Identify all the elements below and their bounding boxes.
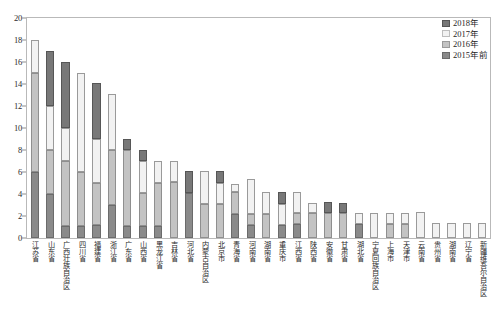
legend-item-2015年前[interactable]: 2015年前 bbox=[442, 51, 488, 60]
bar-segment-2017年 bbox=[416, 212, 424, 238]
x-axis-label: 四川省 bbox=[77, 241, 84, 262]
bar-segment-2016年 bbox=[154, 183, 162, 226]
x-axis-label: 河南省 bbox=[247, 241, 254, 262]
bar-segment-2015年前 bbox=[231, 214, 239, 238]
bar-天津市[interactable] bbox=[401, 213, 409, 238]
bar-segment-2016年 bbox=[200, 204, 208, 238]
bar-湖南省[interactable] bbox=[262, 192, 270, 238]
x-axis-label: 江西省 bbox=[293, 241, 300, 262]
bar-湖北省[interactable] bbox=[355, 213, 363, 238]
bar-segment-2016年 bbox=[339, 213, 347, 238]
bar-山西省[interactable] bbox=[139, 150, 147, 238]
bar-广东省[interactable] bbox=[123, 139, 131, 238]
bar-上海市[interactable] bbox=[386, 213, 394, 238]
bar-segment-2017年 bbox=[216, 183, 224, 204]
bar-黑龙江省[interactable] bbox=[154, 161, 162, 238]
bar-重庆市[interactable] bbox=[278, 192, 286, 238]
y-axis-tick-label: 12 bbox=[14, 102, 22, 111]
bar-江西省[interactable] bbox=[293, 192, 301, 238]
bar-河南省[interactable] bbox=[247, 179, 255, 238]
y-axis-tick-label: 10 bbox=[14, 124, 22, 133]
bar-segment-2017年 bbox=[108, 94, 116, 150]
legend-item-2016年[interactable]: 2016年 bbox=[442, 40, 479, 49]
bar-云南省[interactable] bbox=[416, 212, 424, 238]
bar-segment-2016年 bbox=[108, 150, 116, 205]
bar-segment-2016年 bbox=[401, 224, 409, 238]
legend-label: 2015年前 bbox=[453, 51, 488, 60]
bar-辽宁省[interactable] bbox=[463, 223, 471, 238]
bar-segment-2017年 bbox=[139, 161, 147, 193]
x-axis-label: 山东省 bbox=[46, 241, 53, 262]
bar-segment-2015年前 bbox=[293, 224, 301, 238]
x-axis-label: 青海省 bbox=[232, 241, 239, 262]
bar-贵州省[interactable] bbox=[432, 223, 440, 238]
bar-segment-2017年 bbox=[401, 213, 409, 224]
bar-内蒙古自治区[interactable] bbox=[200, 171, 208, 238]
bar-segment-2015年前 bbox=[77, 226, 85, 238]
y-axis-tick-mark bbox=[22, 62, 26, 63]
bar-新疆维吾尔自治区[interactable] bbox=[478, 223, 486, 238]
bar-广西壮族自治区[interactable] bbox=[61, 62, 69, 238]
legend-swatch-icon bbox=[442, 30, 450, 37]
y-axis-tick-label: 18 bbox=[14, 36, 22, 45]
x-axis-label: 内蒙古自治区 bbox=[201, 241, 208, 283]
x-axis-label: 湖南省 bbox=[448, 241, 455, 262]
bar-segment-2015年前 bbox=[139, 226, 147, 238]
bar-安徽省[interactable] bbox=[324, 202, 332, 238]
bar-青海省[interactable] bbox=[231, 184, 239, 238]
y-axis-tick-mark bbox=[22, 194, 26, 195]
bar-segment-2017年 bbox=[370, 213, 378, 238]
bar-segment-2018年 bbox=[185, 171, 193, 193]
stacked-bar-chart: 02468101214161820 江苏省山东省广西壮族自治区四川省福建省浙江省… bbox=[0, 0, 501, 327]
x-axis-label: 河北省 bbox=[185, 241, 192, 262]
bar-山东省[interactable] bbox=[46, 51, 54, 238]
y-axis-tick-mark bbox=[22, 172, 26, 173]
x-axis-label: 宁夏回族自治区 bbox=[371, 241, 378, 290]
y-axis-tick-mark bbox=[22, 106, 26, 107]
x-axis-label: 甘肃省 bbox=[340, 241, 347, 262]
bar-segment-2017年 bbox=[46, 106, 54, 150]
y-axis-tick-mark bbox=[22, 238, 26, 239]
bar-segment-2017年 bbox=[463, 223, 471, 238]
bar-segment-2016年 bbox=[92, 183, 100, 225]
x-axis-label: 黑龙江省 bbox=[154, 241, 161, 269]
x-axis-label: 湖北省 bbox=[355, 241, 362, 262]
bar-湖南省[interactable] bbox=[447, 223, 455, 238]
bar-segment-2016年 bbox=[123, 150, 131, 226]
x-axis-label: 贵州省 bbox=[432, 241, 439, 262]
bar-福建省[interactable] bbox=[92, 83, 100, 238]
x-axis-labels: 江苏省山东省广西壮族自治区四川省福建省浙江省广东省山西省黑龙江省吉林省河北省内蒙… bbox=[27, 241, 490, 327]
bar-segment-2015年前 bbox=[123, 226, 131, 238]
bar-segment-2017年 bbox=[386, 213, 394, 224]
bar-segment-2017年 bbox=[278, 204, 286, 225]
x-axis-label: 重庆市 bbox=[278, 241, 285, 262]
bar-segment-2017年 bbox=[154, 161, 162, 183]
bar-segment-2016年 bbox=[262, 214, 270, 238]
bar-江苏省[interactable] bbox=[31, 40, 39, 238]
bar-segment-2015年前 bbox=[154, 226, 162, 238]
legend-swatch-icon bbox=[442, 41, 450, 48]
bar-segment-2017年 bbox=[231, 184, 239, 192]
bar-陕西省[interactable] bbox=[308, 203, 316, 238]
legend-item-2017年[interactable]: 2017年 bbox=[442, 30, 479, 39]
bar-segment-2016年 bbox=[139, 193, 147, 226]
legend-item-2018年[interactable]: 2018年 bbox=[442, 19, 479, 28]
bar-segment-2018年 bbox=[324, 202, 332, 213]
bar-segment-2016年 bbox=[386, 224, 394, 238]
bar-宁夏回族自治区[interactable] bbox=[370, 213, 378, 238]
bar-segment-2018年 bbox=[278, 192, 286, 204]
bar-segment-2016年 bbox=[31, 73, 39, 172]
chart-legend: 2018年2017年2016年2015年前 bbox=[442, 19, 488, 60]
bar-四川省[interactable] bbox=[77, 73, 85, 238]
bar-segment-2017年 bbox=[247, 179, 255, 214]
x-axis-label: 福建省 bbox=[93, 241, 100, 262]
bar-segment-2016年 bbox=[170, 182, 178, 238]
y-axis-tick-mark bbox=[22, 150, 26, 151]
bar-吉林省[interactable] bbox=[170, 161, 178, 238]
bar-甘肃省[interactable] bbox=[339, 203, 347, 238]
bar-河北省[interactable] bbox=[185, 171, 193, 238]
y-axis-tick-mark bbox=[22, 84, 26, 85]
bar-北京市[interactable] bbox=[216, 171, 224, 238]
legend-label: 2016年 bbox=[453, 40, 479, 49]
bar-浙江省[interactable] bbox=[108, 94, 116, 238]
